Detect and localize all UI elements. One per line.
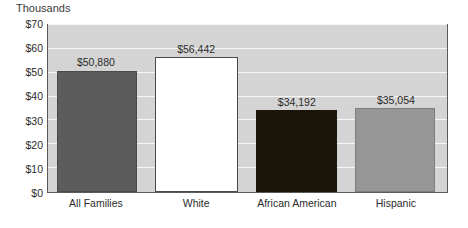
bar: [57, 71, 137, 192]
y-tick-label: $40: [25, 91, 43, 102]
x-tick-label: White: [183, 197, 210, 210]
y-axis: $0$10$20$30$40$50$60$70: [0, 24, 43, 193]
bar-chart-figure: Thousands $0$10$20$30$40$50$60$70 $50,88…: [0, 0, 468, 228]
x-tick-label: All Families: [69, 197, 123, 210]
x-tick-label: African American: [257, 197, 336, 210]
bar: [155, 57, 238, 192]
y-tick-label: $10: [25, 163, 43, 174]
x-axis: All FamiliesWhiteAfrican AmericanHispani…: [47, 197, 448, 217]
y-tick-label: $50: [25, 67, 43, 78]
bar: [355, 108, 435, 192]
units-title: Thousands: [16, 2, 70, 15]
x-tick-label: Hispanic: [376, 197, 416, 210]
plot-area: [47, 24, 448, 193]
y-tick-label: $70: [25, 19, 43, 30]
y-tick-label: $20: [25, 139, 43, 150]
y-tick-label: $30: [25, 115, 43, 126]
y-tick-label: $0: [31, 188, 43, 199]
y-tick-label: $60: [25, 43, 43, 54]
bars-layer: [48, 25, 447, 192]
bar: [256, 110, 337, 192]
